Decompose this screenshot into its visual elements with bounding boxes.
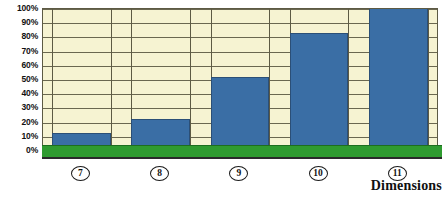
y-axis-tick-label: 90% [0, 18, 38, 27]
y-axis-tick-label: 100% [0, 4, 38, 13]
y-axis-tick-label: 80% [0, 32, 38, 41]
column-separator [52, 9, 53, 149]
bar-11 [369, 8, 428, 149]
y-axis-tick-label: 60% [0, 60, 38, 69]
x-axis-title: Dimensions [371, 178, 442, 194]
column-separator [111, 9, 112, 149]
circled-number: 7 [71, 166, 90, 181]
column-separator [348, 9, 349, 149]
baseline-shadow [42, 157, 442, 159]
y-axis-tick-label: 10% [0, 131, 38, 140]
circled-number: 9 [229, 166, 248, 181]
y-axis-tick-label: 0% [0, 146, 38, 155]
bar-9 [211, 77, 270, 149]
y-axis-tick-label: 20% [0, 117, 38, 126]
x-axis-tick-label: 8 [140, 162, 180, 181]
x-axis-tick-label: 10 [298, 162, 338, 181]
y-axis: 0%10%20%30%40%50%60%70%80%90%100% [0, 8, 38, 150]
x-axis-tick-label: 9 [219, 162, 259, 181]
circled-number: 10 [309, 166, 328, 181]
column-separator [269, 9, 270, 149]
column-separator [190, 9, 191, 149]
y-axis-tick-label: 40% [0, 89, 38, 98]
column-separator [428, 9, 429, 149]
circled-number: 8 [150, 166, 169, 181]
x-axis-tick-label: 7 [60, 162, 100, 181]
y-axis-tick-label: 30% [0, 103, 38, 112]
y-axis-tick-label: 70% [0, 46, 38, 55]
plot-area [42, 8, 438, 150]
y-axis-tick-label: 50% [0, 75, 38, 84]
bar-chart: 0%10%20%30%40%50%60%70%80%90%100% 789101… [0, 0, 446, 199]
bar-10 [290, 33, 349, 149]
